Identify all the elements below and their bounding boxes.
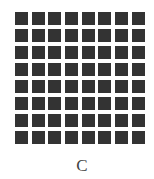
grid-square [115,131,128,144]
grid-square [32,46,45,59]
grid-square [32,29,45,42]
grid-square [15,80,28,93]
grid-square [98,29,111,42]
grid-square [98,80,111,93]
grid-square [48,80,61,93]
grid-square [32,12,45,25]
grid-square [132,63,145,76]
grid-square [132,114,145,127]
grid-square [65,80,78,93]
grid-square [98,46,111,59]
grid-square [32,80,45,93]
grid-square [98,131,111,144]
grid-square [132,80,145,93]
grid-square [15,12,28,25]
grid-square [98,12,111,25]
grid-square [15,97,28,110]
grid-square [15,46,28,59]
figure-label: C [0,156,154,176]
grid-square [65,131,78,144]
grid-square [48,97,61,110]
grid-square [65,12,78,25]
grid-square [82,131,95,144]
grid-square [65,46,78,59]
grid-square [48,63,61,76]
grid-square [115,97,128,110]
grid-square [132,97,145,110]
grid-square [32,114,45,127]
square-grid [15,12,145,144]
grid-square [132,29,145,42]
grid-square [82,80,95,93]
grid-square [65,97,78,110]
grid-square [82,97,95,110]
grid-square [65,63,78,76]
grid-square [32,131,45,144]
grid-square [98,97,111,110]
grid-square [82,12,95,25]
grid-square [115,114,128,127]
grid-square [15,29,28,42]
grid-square [115,46,128,59]
grid-square [98,114,111,127]
grid-square [115,80,128,93]
grid-square [115,29,128,42]
grid-square [82,29,95,42]
grid-square [65,29,78,42]
grid-square [48,12,61,25]
grid-square [115,12,128,25]
grid-square [15,131,28,144]
grid-square [32,63,45,76]
grid-square [132,12,145,25]
grid-square [82,114,95,127]
grid-square [48,131,61,144]
grid-square [65,114,78,127]
grid-square [82,63,95,76]
grid-square [32,97,45,110]
grid-square [15,114,28,127]
grid-square [15,63,28,76]
grid-square [82,46,95,59]
grid-square [98,63,111,76]
grid-square [48,114,61,127]
grid-square [132,131,145,144]
grid-square [48,29,61,42]
grid-square [115,63,128,76]
grid-square [48,46,61,59]
grid-square [132,46,145,59]
